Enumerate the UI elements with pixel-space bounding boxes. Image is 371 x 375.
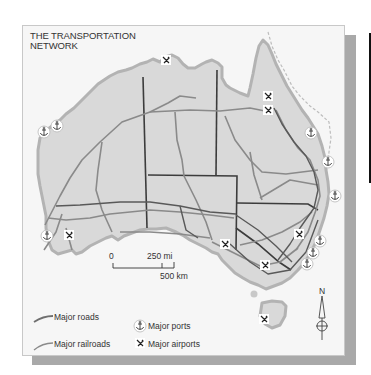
anchor-icon bbox=[305, 127, 317, 139]
airplane-icon bbox=[220, 239, 230, 249]
legend-railroad-swatch bbox=[34, 343, 53, 350]
anchor-icon bbox=[322, 156, 334, 168]
airplane-icon bbox=[263, 105, 273, 115]
anchor-icon bbox=[307, 247, 319, 259]
map-title-line2: NETWORK bbox=[30, 41, 136, 51]
anchor-icon bbox=[51, 120, 63, 132]
legend-airports-label: Major airports bbox=[148, 339, 200, 349]
scale-km-label: 500 km bbox=[160, 271, 188, 281]
airplane-icon bbox=[64, 230, 74, 240]
map-title: THE TRANSPORTATION NETWORK bbox=[30, 31, 136, 51]
anchor-icon bbox=[38, 126, 50, 138]
north-arrow-icon bbox=[316, 296, 328, 340]
airplane-icon bbox=[259, 314, 269, 324]
legend-ports-label: Major ports bbox=[148, 321, 191, 331]
anchor-icon bbox=[41, 230, 53, 242]
mainland-australia bbox=[38, 40, 329, 289]
bass-strait-island bbox=[251, 291, 258, 298]
anchor-icon bbox=[329, 190, 341, 202]
scale-bar bbox=[113, 262, 174, 268]
airplane-icon bbox=[161, 55, 171, 65]
scale-miles-label: 250 mi bbox=[147, 251, 173, 261]
airplane-icon bbox=[260, 260, 270, 270]
legend-railroads-label: Major railroads bbox=[54, 339, 110, 349]
legend-anchor-icon bbox=[134, 320, 146, 332]
airplane-icon bbox=[263, 91, 273, 101]
anchor-icon bbox=[314, 235, 326, 247]
north-label: N bbox=[319, 286, 325, 296]
airplane-icon bbox=[294, 229, 304, 239]
legend-airplane-icon bbox=[135, 338, 145, 348]
legend-roads-label: Major roads bbox=[54, 312, 99, 322]
scale-zero-label: 0 bbox=[109, 251, 114, 261]
anchor-icon bbox=[301, 258, 313, 270]
legend-road-swatch bbox=[34, 316, 53, 322]
